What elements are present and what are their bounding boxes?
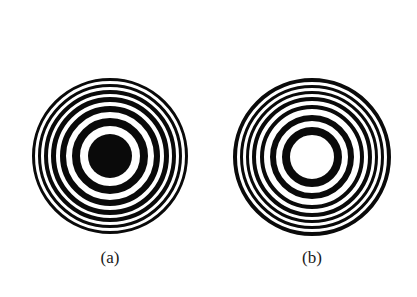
dark-fringe-ring [235,80,389,234]
caption-a: (a) [101,248,120,268]
interference-rings-figure [0,0,417,297]
caption-b: (b) [302,248,322,268]
dark-fringe-ring [248,93,377,222]
dark-center-disk [88,134,132,178]
ring-pattern-b-bright-center [235,80,389,234]
dark-fringe-ring [262,107,362,207]
ring-pattern-a-dark-center [34,80,187,233]
dark-fringe-ring [286,131,338,183]
